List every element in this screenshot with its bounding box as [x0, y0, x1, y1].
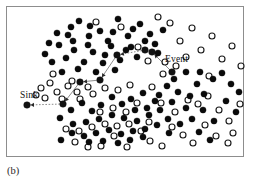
figure-caption: (b) — [7, 165, 19, 176]
figure-container: Sink Event (b) — [0, 0, 254, 183]
sink-label: Sink — [20, 90, 38, 100]
event-label: Event — [165, 54, 188, 64]
plot-frame — [6, 6, 244, 157]
